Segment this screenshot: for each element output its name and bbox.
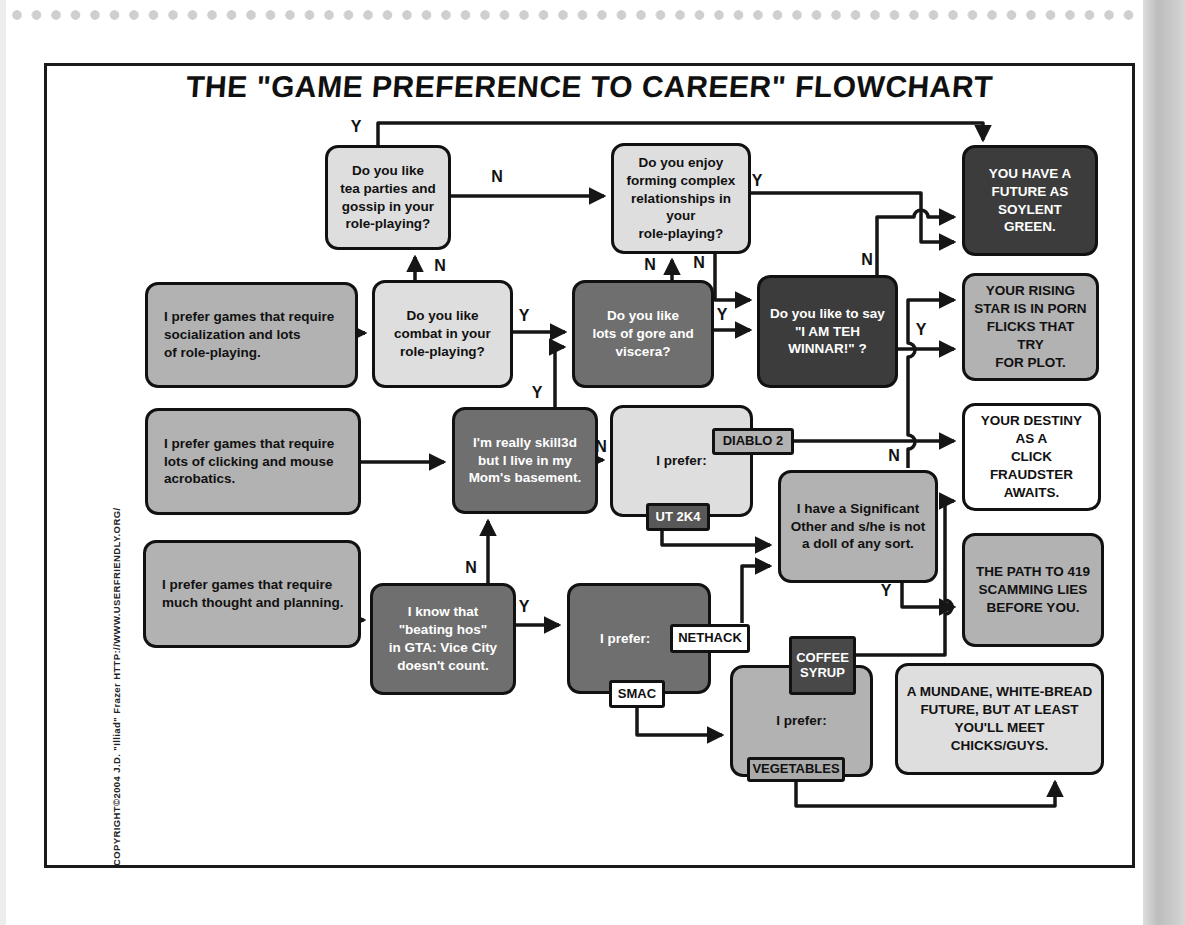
branch-label-y-14: Y bbox=[519, 598, 530, 616]
node-tea-parties: Do you like tea parties and gossip in yo… bbox=[325, 145, 451, 250]
node-gta-vice-city: I know that "beating hos" in GTA: Vice C… bbox=[370, 583, 516, 695]
branch-label-n-11: N bbox=[595, 438, 607, 456]
tag-nethack: NETHACK bbox=[670, 624, 750, 653]
node-prefer-diablo-ut: I prefer: bbox=[610, 405, 753, 517]
node-prefer-socialization: I prefer games that require socializatio… bbox=[145, 282, 358, 388]
tag-smac: SMAC bbox=[609, 680, 665, 708]
node-mundane-future: A MUNDANE, WHITE-BREAD FUTURE, BUT AT LE… bbox=[895, 663, 1104, 775]
branch-label-y-6: Y bbox=[717, 306, 728, 324]
edge-smac-to-prefer-coffee-veg bbox=[637, 708, 722, 735]
node-path-419: THE PATH TO 419 SCAMMING LIES BEFORE YOU… bbox=[962, 533, 1104, 647]
node-prefer-clicking: I prefer games that require lots of clic… bbox=[145, 408, 361, 515]
branch-label-n-5: N bbox=[693, 254, 705, 272]
edge-forming-relationships-to-winnar bbox=[715, 253, 750, 300]
comic-scan-page: THE "GAME PREFERENCE TO CAREER" FLOWCHAR… bbox=[0, 0, 1185, 925]
branch-label-y-3: Y bbox=[519, 307, 530, 325]
node-prefer-thought: I prefer games that require much thought… bbox=[143, 540, 361, 648]
tag-vegetables: VEGETABLES bbox=[747, 757, 845, 782]
branch-label-y-9: Y bbox=[916, 321, 927, 339]
tag-ut2k4: UT 2K4 bbox=[646, 503, 710, 531]
branch-label-y-7: Y bbox=[752, 172, 763, 190]
node-porn-flicks: YOUR RISING STAR IS IN PORN FLICKS THAT … bbox=[962, 273, 1099, 381]
branch-label-y-15: Y bbox=[881, 582, 892, 600]
tag-diablo2: DIABLO 2 bbox=[712, 428, 794, 455]
node-winnar: Do you like to say "I AM TEH WINNAR!" ? bbox=[757, 275, 898, 388]
edge-forming-relationships-to-soylent-green bbox=[750, 193, 954, 242]
branch-label-n-8: N bbox=[861, 251, 873, 269]
node-click-fraudster: YOUR DESTINY AS A CLICK FRAUDSTER AWAITS… bbox=[962, 403, 1101, 511]
node-gore: Do you like lots of gore and viscera? bbox=[572, 280, 714, 388]
edge-nethack-to-significant-other bbox=[742, 566, 770, 623]
branch-label-y-12: Y bbox=[532, 384, 543, 402]
branch-label-n-10: N bbox=[888, 447, 900, 465]
branch-label-n-2: N bbox=[434, 257, 446, 275]
branch-label-n-13: N bbox=[465, 559, 477, 577]
edge-tea-parties-to-soylent-green bbox=[378, 123, 983, 145]
branch-label-n-1: N bbox=[491, 168, 503, 186]
edge-vegetables-to-mundane-future bbox=[796, 782, 1055, 806]
edge-ut2k4-to-significant-other bbox=[662, 531, 770, 545]
branch-label-y-0: Y bbox=[351, 118, 362, 136]
node-skill3d: I'm really skill3d but I live in my Mom'… bbox=[452, 407, 598, 514]
edge-skill3d-to-gore bbox=[555, 347, 564, 407]
node-significant-other: I have a Significant Other and s/he is n… bbox=[778, 470, 938, 583]
tag-coffee-syrup: COFFEE SYRUP bbox=[789, 636, 856, 695]
node-combat: Do you like combat in your role-playing? bbox=[372, 280, 513, 388]
branch-label-n-4: N bbox=[644, 256, 656, 274]
node-forming-relationships: Do you enjoy forming complex relationshi… bbox=[611, 143, 751, 254]
node-soylent-green: YOU HAVE A FUTURE AS SOYLENT GREEN. bbox=[962, 145, 1098, 256]
